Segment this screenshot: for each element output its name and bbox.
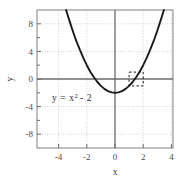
- y-tick-label--8: -8: [26, 129, 34, 139]
- x-tick-label--2: -2: [83, 152, 91, 162]
- x-tick-label-0: 0: [113, 152, 118, 162]
- y-tick-label-8: 8: [29, 19, 34, 29]
- y-tick-label-0: 0: [29, 74, 34, 84]
- x-tick-label--4: -4: [55, 152, 63, 162]
- parabola-figure: 8 4 0 -4 -8 -4 -2 0 2 4 x y y = x2- 2: [0, 0, 183, 186]
- equation-suffix: - 2: [80, 93, 92, 103]
- y-tick-label--4: -4: [26, 102, 34, 112]
- equation-exponent: 2: [75, 92, 79, 99]
- y-axis-title: y: [5, 76, 15, 81]
- x-tick-label-4: 4: [169, 152, 174, 162]
- y-tick-label-4: 4: [29, 47, 34, 57]
- x-tick-label-2: 2: [141, 152, 146, 162]
- plot-canvas: 8 4 0 -4 -8 -4 -2 0 2 4 x y y = x2- 2: [0, 0, 183, 186]
- equation-annotation: y = x2- 2: [52, 92, 92, 103]
- x-axis-title: x: [113, 167, 118, 177]
- equation-prefix: y = x: [52, 93, 75, 103]
